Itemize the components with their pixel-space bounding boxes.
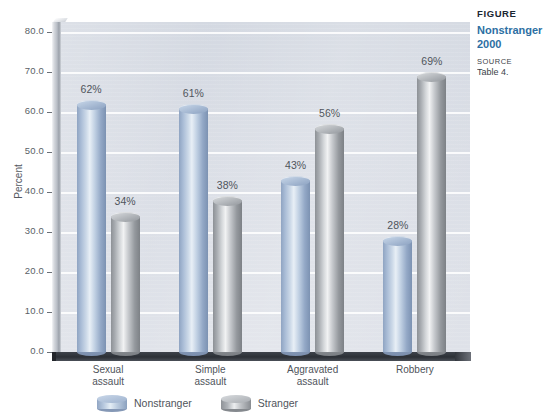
source-label: SOURCE xyxy=(477,57,547,66)
legend-swatch-part xyxy=(221,395,251,403)
bar-stranger-0[interactable] xyxy=(111,212,140,352)
y-tick-label: 0.0 xyxy=(10,345,44,356)
bar-body xyxy=(281,180,310,352)
category-label-3: Robbery xyxy=(361,364,468,376)
legend-item-stranger[interactable]: Stranger xyxy=(221,395,298,412)
category-label-0: Sexualassault xyxy=(55,364,162,388)
y-tick-label: 10.0 xyxy=(10,305,44,316)
bar-body xyxy=(111,216,140,352)
legend-swatch-part xyxy=(97,395,127,403)
figure-caption: FIGURE Nonstranger 2000 SOURCE Table 4. xyxy=(477,8,547,78)
bar-cap xyxy=(111,212,140,222)
bar-value-label: 38% xyxy=(205,179,250,191)
bar-body xyxy=(383,240,412,352)
gridline xyxy=(61,192,470,194)
bar-value-label: 28% xyxy=(375,219,420,231)
bar-stranger-3[interactable] xyxy=(417,72,446,352)
bar-cap xyxy=(179,104,208,114)
category-label-1: Simpleassault xyxy=(157,364,264,388)
category-label-line: Robbery xyxy=(361,364,468,376)
bar-value-label: 62% xyxy=(69,83,114,95)
y-tick-label: 20.0 xyxy=(10,265,44,276)
bar-stranger-2[interactable] xyxy=(315,124,344,352)
bar-nonstranger-1[interactable] xyxy=(179,104,208,352)
bar-nonstranger-3[interactable] xyxy=(383,236,412,352)
y-tick-label: 70.0 xyxy=(10,65,44,76)
bar-body xyxy=(77,104,106,352)
bar-body xyxy=(179,108,208,352)
legend-item-nonstranger[interactable]: Nonstranger xyxy=(97,395,192,412)
plot-area xyxy=(61,22,470,352)
figure-number: FIGURE xyxy=(477,8,547,19)
bar-cap xyxy=(281,176,310,186)
bar-cap xyxy=(315,124,344,134)
bar-cap xyxy=(77,100,106,110)
y-tick-label: 30.0 xyxy=(10,225,44,236)
bar-body xyxy=(213,200,242,352)
bar-body xyxy=(417,76,446,352)
bar-nonstranger-0[interactable] xyxy=(77,100,106,352)
bar-value-label: 56% xyxy=(307,107,352,119)
axis-wall xyxy=(52,22,61,360)
chart-legend: NonstrangerStranger xyxy=(97,392,298,414)
bar-nonstranger-2[interactable] xyxy=(281,176,310,352)
source-text: Table 4. xyxy=(477,67,547,78)
gridline xyxy=(61,152,470,154)
gridline xyxy=(61,112,470,114)
legend-swatch-gray xyxy=(221,395,251,412)
gridline xyxy=(61,72,470,74)
bar-value-label: 34% xyxy=(103,195,148,207)
legend-label: Stranger xyxy=(258,397,298,409)
figure-year: 2000 xyxy=(477,37,547,51)
y-tick-label: 80.0 xyxy=(10,25,44,36)
category-label-2: Aggravatedassault xyxy=(259,364,366,388)
y-tick-label: 60.0 xyxy=(10,105,44,116)
floor-right-edge xyxy=(455,352,471,361)
category-label-line: Aggravated xyxy=(259,364,366,376)
gridline xyxy=(61,32,470,34)
bar-value-label: 43% xyxy=(273,159,318,171)
bar-stranger-1[interactable] xyxy=(213,196,242,352)
bar-cap xyxy=(213,196,242,206)
y-tick-label: 50.0 xyxy=(10,145,44,156)
category-label-line: assault xyxy=(55,376,162,388)
figure-title: Nonstranger xyxy=(477,23,547,37)
bar-value-label: 61% xyxy=(171,87,216,99)
bar-value-label: 69% xyxy=(409,55,454,67)
category-label-line: Simple xyxy=(157,364,264,376)
category-label-line: Sexual xyxy=(55,364,162,376)
category-label-line: assault xyxy=(157,376,264,388)
bar-body xyxy=(315,128,344,352)
y-tick-label: 40.0 xyxy=(10,185,44,196)
legend-swatch-blue xyxy=(97,395,127,412)
y-axis-label: Percent xyxy=(13,152,24,212)
legend-label: Nonstranger xyxy=(134,397,192,409)
category-label-line: assault xyxy=(259,376,366,388)
